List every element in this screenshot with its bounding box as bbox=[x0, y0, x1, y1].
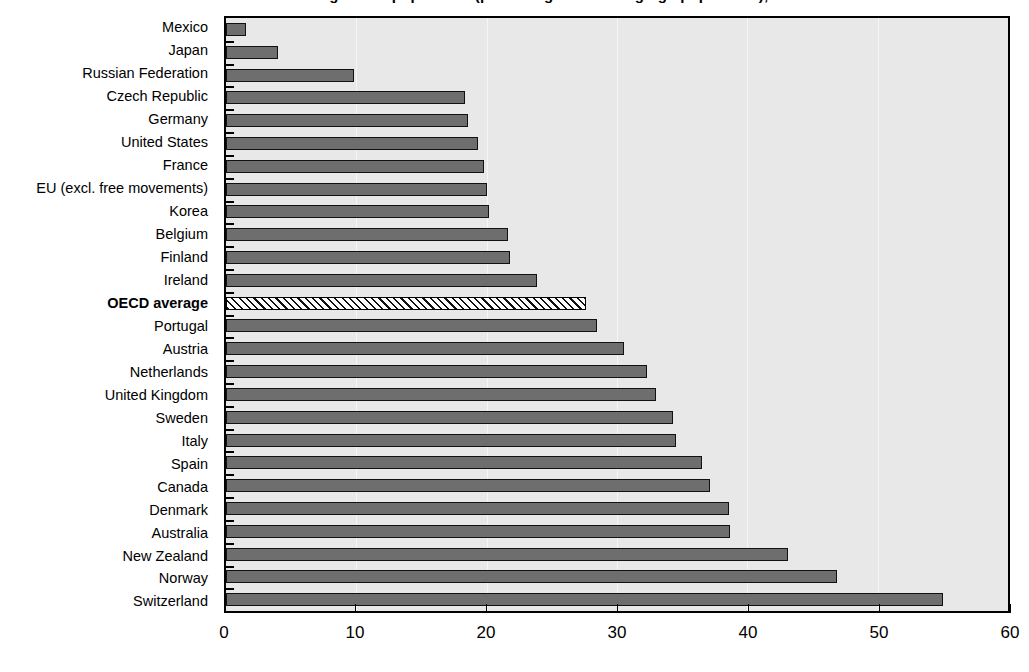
bar bbox=[226, 593, 943, 606]
y-axis-label: Austria bbox=[0, 338, 216, 361]
bar bbox=[226, 69, 354, 82]
y-axis-category-labels: MexicoJapanRussian FederationCzech Repub… bbox=[0, 16, 216, 613]
y-axis-tick bbox=[226, 269, 234, 271]
bar bbox=[226, 365, 647, 378]
chart-title: Stocks of foreign-born population (perce… bbox=[0, 0, 1029, 3]
y-axis-label: Italy bbox=[0, 429, 216, 452]
y-axis-tick bbox=[226, 155, 234, 157]
y-axis-label: Spain bbox=[0, 452, 216, 475]
y-axis-label: New Zealand bbox=[0, 544, 216, 567]
bar bbox=[226, 525, 730, 538]
x-axis-tick-label: 30 bbox=[608, 623, 627, 643]
bar bbox=[226, 91, 465, 104]
x-axis-tick bbox=[879, 604, 880, 613]
bar-chart: Stocks of foreign-born population (perce… bbox=[0, 0, 1029, 672]
bar-row bbox=[226, 132, 1008, 155]
bar-row bbox=[226, 315, 1008, 338]
y-axis-tick bbox=[226, 474, 234, 476]
y-axis-tick bbox=[226, 360, 234, 362]
y-axis-tick bbox=[226, 451, 234, 453]
x-axis-tick-label: 10 bbox=[346, 623, 365, 643]
x-axis-tick bbox=[355, 604, 356, 613]
x-axis-tick-label: 0 bbox=[219, 623, 228, 643]
bar bbox=[226, 228, 508, 241]
bar bbox=[226, 183, 487, 196]
bar-row bbox=[226, 178, 1008, 201]
y-axis-label: Japan bbox=[0, 39, 216, 62]
x-axis-tick-label: 60 bbox=[1001, 623, 1020, 643]
bar bbox=[226, 388, 656, 401]
y-axis-tick bbox=[226, 223, 234, 225]
bar-row bbox=[226, 360, 1008, 383]
y-axis-label: Switzerland bbox=[0, 590, 216, 613]
bar-row bbox=[226, 406, 1008, 429]
bar bbox=[226, 479, 710, 492]
bar bbox=[226, 46, 278, 59]
y-axis-tick bbox=[226, 520, 234, 522]
y-axis-tick bbox=[226, 497, 234, 499]
y-axis-tick bbox=[226, 588, 234, 590]
y-axis-tick bbox=[226, 246, 234, 248]
y-axis-label: Ireland bbox=[0, 269, 216, 292]
y-axis-label: Denmark bbox=[0, 498, 216, 521]
bar bbox=[226, 502, 729, 515]
x-axis-tick-label: 20 bbox=[477, 623, 496, 643]
y-axis-tick bbox=[226, 337, 234, 339]
bar bbox=[226, 456, 702, 469]
bar-row bbox=[226, 18, 1008, 41]
y-axis-label: Korea bbox=[0, 200, 216, 223]
x-axis-tick bbox=[617, 604, 618, 613]
y-axis-tick bbox=[226, 406, 234, 408]
y-axis-label: Belgium bbox=[0, 223, 216, 246]
plot-area bbox=[224, 16, 1010, 613]
bar-row bbox=[226, 429, 1008, 452]
x-axis: 0102030405060 bbox=[224, 613, 1010, 614]
bar bbox=[226, 251, 510, 264]
bar-row bbox=[226, 109, 1008, 132]
bar-series bbox=[226, 18, 1008, 611]
y-axis-label: Russian Federation bbox=[0, 62, 216, 85]
bar-row bbox=[226, 497, 1008, 520]
bar-row bbox=[226, 383, 1008, 406]
y-axis-tick bbox=[226, 178, 234, 180]
bar bbox=[226, 411, 673, 424]
y-axis-label: Netherlands bbox=[0, 361, 216, 384]
y-axis-label: Finland bbox=[0, 246, 216, 269]
x-axis-tick bbox=[748, 604, 749, 613]
y-axis-label: Germany bbox=[0, 108, 216, 131]
x-axis-tick-label: 40 bbox=[739, 623, 758, 643]
y-axis-label: EU (excl. free movements) bbox=[0, 177, 216, 200]
y-axis-label: United Kingdom bbox=[0, 384, 216, 407]
y-axis-tick bbox=[226, 566, 234, 568]
bar-row bbox=[226, 520, 1008, 543]
bar bbox=[226, 137, 478, 150]
bar bbox=[226, 114, 468, 127]
bar-row bbox=[226, 451, 1008, 474]
y-axis-label: Canada bbox=[0, 475, 216, 498]
x-axis-tick bbox=[1010, 604, 1011, 613]
y-axis-tick bbox=[226, 543, 234, 545]
y-axis-tick bbox=[226, 201, 234, 203]
bar bbox=[226, 160, 484, 173]
bar bbox=[226, 548, 788, 561]
bar-row bbox=[226, 201, 1008, 224]
bar-row bbox=[226, 543, 1008, 566]
plot-inner bbox=[226, 18, 1008, 611]
bar-row bbox=[226, 474, 1008, 497]
bar-row bbox=[226, 86, 1008, 109]
bar bbox=[226, 319, 597, 332]
y-axis-label: United States bbox=[0, 131, 216, 154]
y-axis-label: Sweden bbox=[0, 406, 216, 429]
bar bbox=[226, 297, 586, 310]
x-axis-tick-label: 50 bbox=[870, 623, 889, 643]
bar-row bbox=[226, 566, 1008, 589]
y-axis-tick bbox=[226, 64, 234, 66]
y-axis-label: Czech Republic bbox=[0, 85, 216, 108]
bar-row bbox=[226, 337, 1008, 360]
y-axis-tick bbox=[226, 383, 234, 385]
x-axis-tick bbox=[486, 604, 487, 613]
bar bbox=[226, 434, 676, 447]
bar-row bbox=[226, 155, 1008, 178]
bar bbox=[226, 274, 537, 287]
bar-row bbox=[226, 41, 1008, 64]
